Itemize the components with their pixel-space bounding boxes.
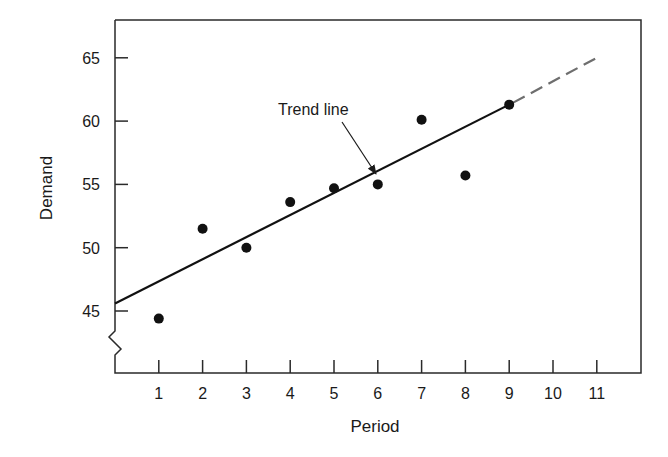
annotation-arrow-icon	[342, 122, 376, 174]
data-point	[154, 314, 164, 324]
y-tick-label: 55	[82, 176, 100, 193]
data-point	[373, 179, 383, 189]
x-tick-label: 5	[330, 385, 339, 402]
data-points	[154, 100, 514, 324]
y-tick-label: 65	[82, 50, 100, 67]
x-tick-label: 6	[373, 385, 382, 402]
x-tick-label: 2	[198, 385, 207, 402]
data-point	[285, 197, 295, 207]
trend-line-forecast	[513, 58, 597, 103]
y-axis-ticks: 4550556065	[82, 50, 128, 320]
y-tick-label: 45	[82, 303, 100, 320]
x-tick-label: 9	[505, 385, 514, 402]
data-point	[329, 183, 339, 193]
y-tick-label: 50	[82, 240, 100, 257]
data-point	[417, 115, 427, 125]
data-point	[460, 171, 470, 181]
x-tick-label: 7	[417, 385, 426, 402]
chart-canvas: 4550556065 1234567891011 Trend line Peri…	[0, 0, 668, 457]
x-axis-title: Period	[350, 417, 399, 436]
data-point	[504, 100, 514, 110]
y-tick-label: 60	[82, 113, 100, 130]
x-tick-label: 1	[154, 385, 163, 402]
x-tick-label: 11	[588, 385, 605, 402]
trend-line-label: Trend line	[278, 101, 349, 118]
x-tick-label: 10	[544, 385, 562, 402]
data-point	[241, 243, 251, 253]
x-axis-ticks: 1234567891011	[154, 360, 605, 402]
y-axis-title: Demand	[37, 156, 56, 220]
x-tick-label: 4	[286, 385, 295, 402]
data-point	[198, 224, 208, 234]
x-tick-label: 8	[461, 385, 470, 402]
trend-line	[115, 105, 509, 304]
x-tick-label: 3	[242, 385, 251, 402]
plot-frame	[109, 20, 641, 373]
